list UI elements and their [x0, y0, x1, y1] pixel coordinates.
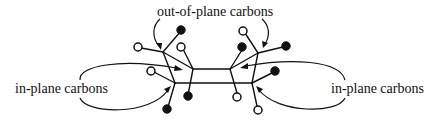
atom-filled-left-bottom — [163, 105, 171, 113]
atom-filled-left-lower — [184, 92, 192, 100]
bridge-bonds — [175, 69, 252, 83]
arrowhead-left-lower — [164, 86, 171, 93]
bond-c5-filled-right — [258, 47, 283, 53]
arrow-top-right — [262, 19, 268, 44]
arrowhead-left-upper — [174, 65, 183, 71]
arrow-top-left — [154, 19, 160, 46]
atom-open-right-top — [239, 27, 247, 35]
bond-c6-filled-right — [252, 73, 272, 83]
molecule-diagram: out-of-plane carbons in-plane carbons in… — [0, 0, 432, 122]
arrowhead-top-left — [156, 43, 162, 50]
left-unit — [134, 26, 193, 113]
arrowhead-right-upper — [240, 63, 248, 69]
bond-c5-open-top — [245, 33, 258, 53]
label-in-plane-carbons-right: in-plane carbons — [331, 81, 424, 96]
bond-c3-filled-bottom — [168, 83, 175, 107]
arrowhead-right-lower — [256, 86, 263, 93]
atom-open-left-mid — [147, 67, 155, 75]
atom-open-left-far — [134, 43, 142, 51]
label-out-of-plane-carbons: out-of-plane carbons — [157, 4, 273, 19]
label-in-plane-carbons-left: in-plane carbons — [15, 81, 108, 96]
atom-filled-left-top — [177, 26, 185, 34]
bond-c5-c6 — [252, 53, 258, 83]
bond-c4-open-bottom — [230, 69, 237, 93]
right-unit — [230, 27, 290, 114]
arrows-out-of-plane — [154, 19, 269, 50]
atom-filled-right-mid — [271, 67, 279, 75]
atom-open-right-bottom — [254, 106, 262, 114]
atom-open-right-lower — [233, 93, 241, 101]
arrow-left-upper — [80, 64, 176, 80]
arrow-right-upper — [246, 62, 345, 80]
atom-filled-right-far — [282, 42, 290, 50]
atom-filled-right-top — [238, 43, 246, 51]
arrowhead-top-right — [262, 41, 268, 48]
bond-c1-open-farleft — [141, 48, 163, 52]
atom-open-left-top — [177, 43, 185, 51]
bond-c2-filled-lower — [188, 69, 193, 95]
